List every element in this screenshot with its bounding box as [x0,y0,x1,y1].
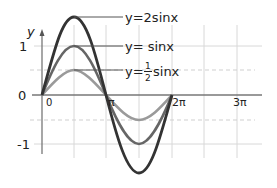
x-tick-pi: π [108,96,115,109]
legend-half-prefix: y= [125,64,144,79]
x-tick-0: 0 [46,97,52,108]
legend-sinx: y= sinx [125,39,174,54]
y-axis-label: y [26,24,35,39]
y-tick-neg1: -1 [17,137,30,152]
x-tick-3pi: 3π [233,96,247,109]
x-tick-2pi: 2π [172,96,186,109]
legend-2sinx: y=2sinx [125,10,178,25]
y-axis-arrow-icon [40,29,45,36]
legend-half-denominator: 2 [145,73,151,83]
y-tick-1: 1 [19,39,27,54]
legend-half-suffix: sinx [153,64,180,79]
sine-amplitude-chart: y=2sinx y= sinx y= 1 2 sinx y 1 0 -1 0 π… [0,0,277,188]
legend-half-numerator: 1 [145,61,151,71]
y-tick-0: 0 [18,88,26,103]
